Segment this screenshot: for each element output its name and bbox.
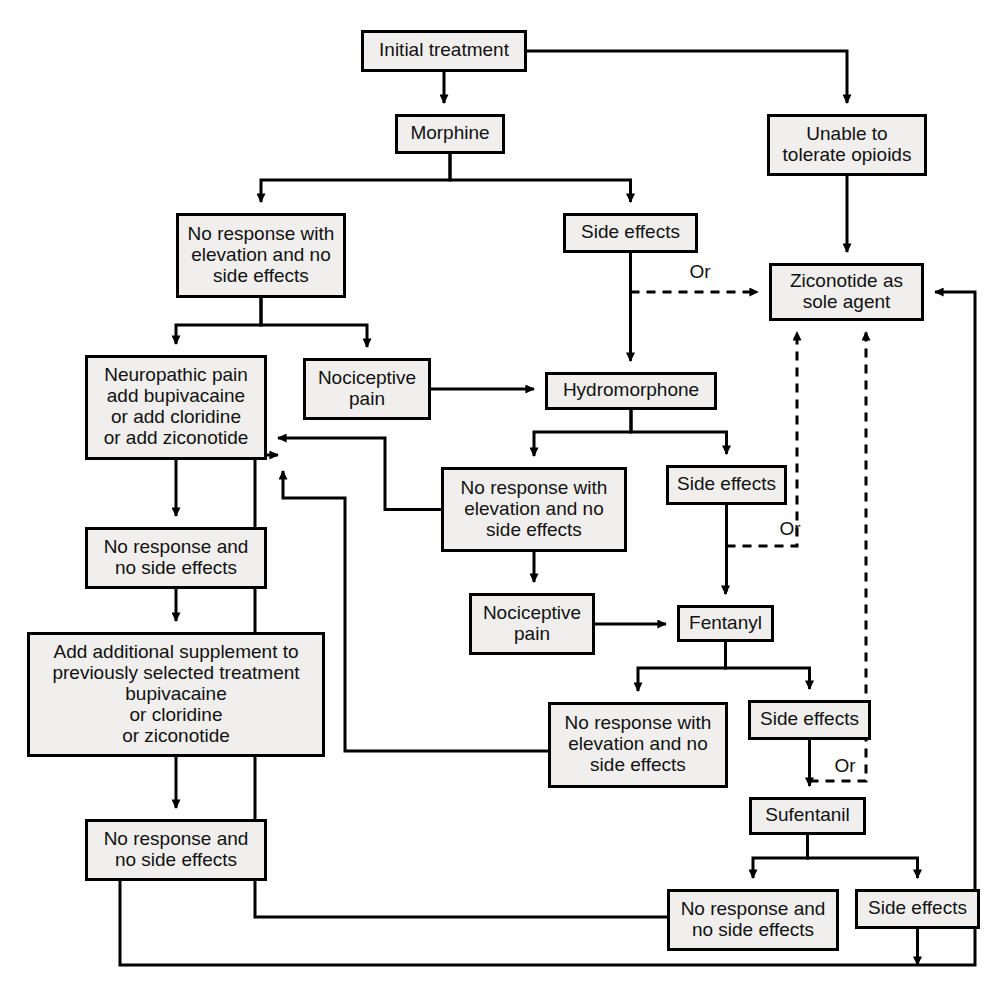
node-f_side[interactable]: Side effects: [750, 702, 870, 739]
node-unable[interactable]: Unable totolerate opioids: [769, 116, 926, 175]
node-m_side[interactable]: Side effects: [565, 215, 697, 252]
or-label: Or: [834, 755, 856, 776]
node-h_noci[interactable]: Nociceptivepain: [471, 595, 594, 654]
or-label: Or: [779, 518, 801, 539]
node-label: elevation and no: [464, 498, 603, 519]
edge-morphine-to-noresponse: [261, 154, 450, 202]
node-label: bupivacaine: [125, 683, 226, 704]
node-label: elevation and no: [568, 733, 707, 754]
node-label: Unable to: [806, 123, 887, 144]
node-neuro[interactable]: Neuropathic painadd bupivacaineor add cl…: [87, 357, 266, 459]
node-label: previously selected treatment: [52, 662, 300, 683]
node-fentanyl[interactable]: Fentanyl: [679, 607, 773, 641]
node-m_noresp[interactable]: No response withelevation and noside eff…: [178, 215, 345, 297]
node-label: no side effects: [115, 557, 237, 578]
node-label: Sufentanil: [765, 804, 850, 825]
node-label: Neuropathic pain: [104, 364, 248, 385]
node-label: no side effects: [692, 919, 814, 940]
node-label: sole agent: [803, 291, 891, 312]
edge-hsideeffects-to-ziconotide: [727, 332, 798, 546]
node-label: No response and: [104, 536, 249, 557]
node-n_noresp1[interactable]: No response andno side effects: [87, 529, 266, 588]
node-label: elevation and no: [191, 244, 330, 265]
edge-mnoresp-to-noci: [261, 298, 367, 347]
node-label: Side effects: [760, 708, 859, 729]
node-n_noresp2[interactable]: No response andno side effects: [87, 821, 266, 880]
node-layer: Initial treatmentMorphineUnable totolera…: [29, 32, 979, 950]
node-h_side[interactable]: Side effects: [668, 467, 786, 504]
node-label: No response and: [681, 898, 826, 919]
edge-hsideeffects-to-fentanyl: [726, 505, 727, 594]
edge-mnoresp-to-neuro: [176, 298, 261, 344]
node-label: Side effects: [581, 221, 680, 242]
node-s_side[interactable]: Side effects: [857, 891, 979, 928]
node-label: no side effects: [115, 849, 237, 870]
node-initial[interactable]: Initial treatment: [363, 32, 526, 71]
or-label-layer: OrOrOr: [689, 261, 856, 776]
node-label: or cloridine: [130, 704, 223, 725]
node-label: No response and: [104, 828, 249, 849]
node-label: pain: [349, 388, 385, 409]
node-label: side effects: [486, 519, 582, 540]
node-label: Hydromorphone: [563, 379, 699, 400]
or-label: Or: [689, 261, 711, 282]
node-zico[interactable]: Ziconotide assole agent: [771, 265, 923, 320]
node-label: side effects: [213, 265, 309, 286]
node-label: or add ziconotide: [104, 427, 249, 448]
node-label: Nociceptive: [483, 602, 581, 623]
edge-initial-to-unable: [527, 51, 847, 103]
edge-fentanyl-to-sideeffects: [726, 642, 810, 689]
node-f_noresp[interactable]: No response withelevation and noside eff…: [550, 704, 727, 787]
node-label: side effects: [590, 754, 686, 775]
node-label: Add additional supplement to: [53, 641, 298, 662]
node-h_noresp[interactable]: No response withelevation and noside eff…: [443, 469, 626, 551]
edge-morphine-to-sideeffects: [450, 154, 631, 202]
node-label: or add cloridine: [111, 406, 241, 427]
node-label: pain: [514, 623, 550, 644]
flowchart-canvas: Initial treatmentMorphineUnable totolera…: [0, 0, 1004, 991]
node-label: Morphine: [410, 122, 489, 143]
node-s_noresp[interactable]: No response andno side effects: [669, 891, 838, 950]
node-label: Side effects: [868, 897, 967, 918]
node-label: or ziconotide: [122, 725, 230, 746]
node-label: Side effects: [677, 473, 776, 494]
edge-sufentanil-to-sideeffects: [808, 835, 918, 878]
flowchart-svg: Initial treatmentMorphineUnable totolera…: [0, 0, 1004, 991]
edge-hydro-to-noresp: [534, 410, 631, 456]
edge-hydro-to-sideeffects: [631, 410, 727, 454]
node-label: No response with: [565, 712, 712, 733]
node-label: Nociceptive: [318, 367, 416, 388]
node-morphine[interactable]: Morphine: [397, 116, 504, 153]
node-label: No response with: [188, 223, 335, 244]
node-m_noci[interactable]: Nociceptivepain: [305, 360, 430, 419]
node-addsupp[interactable]: Add additional supplement topreviously s…: [29, 634, 324, 756]
node-sufentanil[interactable]: Sufentanil: [751, 799, 865, 834]
node-label: Fentanyl: [689, 612, 762, 633]
node-label: add bupivacaine: [107, 385, 245, 406]
edge-sufentanil-to-noresp: [753, 835, 808, 878]
node-label: Ziconotide as: [790, 270, 903, 291]
node-label: No response with: [461, 477, 608, 498]
edge-fentanyl-to-noresp: [638, 642, 726, 691]
node-label: tolerate opioids: [783, 144, 912, 165]
node-label: Initial treatment: [379, 39, 510, 60]
node-hydro[interactable]: Hydromorphone: [547, 374, 716, 409]
